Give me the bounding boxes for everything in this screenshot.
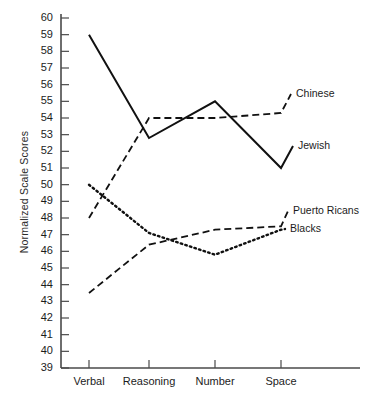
y-tick-label: 44 <box>27 279 53 290</box>
y-tick-label: 53 <box>27 129 53 140</box>
y-tick-label: 48 <box>27 212 53 223</box>
y-tick-label: 56 <box>27 79 53 90</box>
y-tick-label: 49 <box>27 195 53 206</box>
series-label-chinese: Chinese <box>296 87 335 99</box>
y-tick-label: 57 <box>27 62 53 73</box>
y-tick-label: 55 <box>27 95 53 106</box>
y-tick-label: 54 <box>27 112 53 123</box>
y-tick-label: 40 <box>27 345 53 356</box>
series-line-chinese <box>89 94 291 218</box>
series-line-jewish <box>89 35 293 168</box>
y-tick-label: 41 <box>27 329 53 340</box>
y-tick-label: 42 <box>27 312 53 323</box>
plot-area <box>0 0 367 406</box>
chart-container: Normalized Scale Scores 6059585756555453… <box>0 0 367 406</box>
y-tick-label: 52 <box>27 145 53 156</box>
x-tick-label: Space <box>265 375 296 387</box>
x-tick-label: Number <box>195 375 234 387</box>
y-tick-label: 50 <box>27 179 53 190</box>
y-tick-label: 60 <box>27 12 53 23</box>
series-label-jewish: Jewish <box>298 139 330 151</box>
y-tick-label: 46 <box>27 245 53 256</box>
x-tick-label: Reasoning <box>123 375 176 387</box>
y-tick-label: 58 <box>27 45 53 56</box>
series-line-blacks <box>89 185 285 255</box>
y-tick-label: 39 <box>27 362 53 373</box>
series-label-blacks: Blacks <box>290 222 321 234</box>
y-tick-label: 45 <box>27 262 53 273</box>
y-tick-label: 59 <box>27 29 53 40</box>
y-tick-label: 51 <box>27 162 53 173</box>
y-tick-label: 47 <box>27 229 53 240</box>
x-tick-label: Verbal <box>73 375 104 387</box>
y-tick-label: 43 <box>27 295 53 306</box>
series-label-puerto-ricans: Puerto Ricans <box>293 204 359 216</box>
series-line-puerto-ricans <box>89 211 288 293</box>
